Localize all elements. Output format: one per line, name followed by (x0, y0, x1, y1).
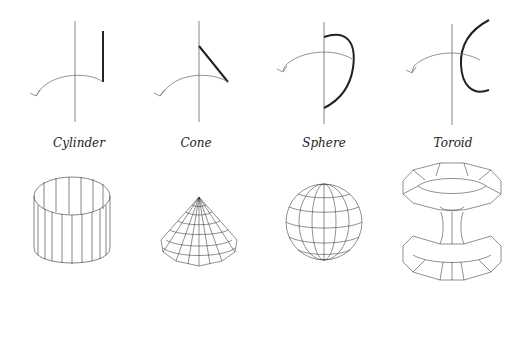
toroid-profile (406, 20, 489, 125)
cylinder-mesh (34, 177, 110, 264)
rotation-arrow-icon (406, 67, 416, 73)
figure-canvas (0, 0, 528, 340)
cone-profile (154, 21, 228, 122)
cone-mesh (161, 197, 237, 266)
toroid-mesh (403, 163, 501, 280)
shape-label-toroid: Toroid (434, 136, 473, 150)
sphere-profile (277, 22, 354, 124)
sphere-mesh (286, 184, 362, 260)
shape-label-cone: Cone (180, 136, 211, 150)
shape-label-cylinder: Cylinder (53, 136, 105, 150)
rotation-arrow-icon (30, 90, 40, 96)
shape-label-sphere: Sphere (302, 136, 346, 150)
rotation-arrow-icon (277, 66, 287, 72)
cylinder-profile (30, 21, 103, 122)
